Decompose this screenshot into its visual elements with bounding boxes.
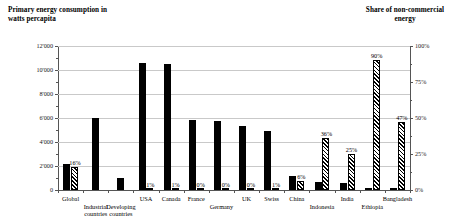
x-axis-label: Germany — [210, 203, 233, 210]
bar-value-label: 25% — [346, 146, 357, 153]
bar-value-label: 47% — [396, 114, 407, 121]
x-axis-label: UK — [242, 195, 251, 202]
bar-noncommercial-bangladesh — [398, 122, 405, 190]
bar-value-label: 1% — [272, 181, 280, 188]
left-minor-tick — [56, 58, 58, 59]
right-minor-tick — [410, 100, 412, 101]
gridline — [58, 70, 410, 71]
bar-noncommercial-canada — [172, 188, 179, 190]
left-tick-label: 10'000 — [9, 66, 53, 73]
bar-value-label: 16% — [69, 159, 80, 166]
x-tick-mark — [83, 190, 84, 193]
left-tick-label: 4'000 — [9, 138, 53, 145]
left-tick-label: 12'000 — [9, 42, 53, 49]
bar-energy-france — [189, 120, 196, 190]
bar-energy-industrial-countries — [92, 118, 99, 190]
bar-energy-china — [289, 176, 296, 190]
x-tick-mark — [108, 190, 109, 193]
bar-value-label: 6% — [297, 173, 305, 180]
chart-canvas: Primary energy consumption in watts perc… — [0, 0, 454, 223]
bar-energy-usa — [139, 63, 146, 190]
bar-noncommercial-france — [197, 188, 204, 190]
bar-energy-uk — [239, 126, 246, 190]
left-axis-title: Primary energy consumption in watts perc… — [8, 6, 118, 23]
x-axis-label: Ethiopia — [362, 203, 383, 210]
bar-noncommercial-ethiopia — [373, 60, 380, 190]
right-tick-label: 50% — [415, 114, 454, 121]
right-axis-title: Share of non-commercial energy — [362, 6, 448, 23]
left-minor-tick — [56, 178, 58, 179]
x-tick-mark — [58, 190, 59, 193]
x-axis-label: Developing — [106, 203, 135, 210]
gridline — [58, 142, 410, 143]
x-tick-mark — [184, 190, 185, 193]
right-minor-tick — [410, 172, 412, 173]
left-minor-tick — [56, 106, 58, 107]
x-axis-label: USA — [140, 195, 153, 202]
bar-energy-india — [340, 183, 347, 190]
bar-noncommercial-india — [348, 154, 355, 190]
x-tick-mark — [284, 190, 285, 193]
x-tick-mark — [259, 190, 260, 193]
bar-noncommercial-swiss — [272, 188, 279, 190]
left-minor-tick — [56, 130, 58, 131]
bar-value-label: 1% — [146, 181, 154, 188]
x-axis-label: Global — [62, 195, 79, 202]
x-tick-mark — [309, 190, 310, 193]
bar-noncommercial-indonesia — [322, 138, 329, 190]
right-tick-label: 0% — [415, 186, 454, 193]
bar-energy-germany — [214, 121, 221, 190]
bar-energy-developing-countries — [117, 178, 124, 190]
x-tick-mark — [360, 190, 361, 193]
left-tick-mark — [55, 70, 58, 71]
right-tick-label: 100% — [415, 42, 454, 49]
x-axis-label: Swiss — [264, 195, 279, 202]
x-tick-mark — [234, 190, 235, 193]
left-tick-label: 8'000 — [9, 90, 53, 97]
right-tick-label: 25% — [415, 150, 454, 157]
x-tick-mark — [335, 190, 336, 193]
x-tick-mark — [410, 190, 411, 193]
x-axis-label: France — [188, 195, 205, 202]
right-tick-mark — [410, 118, 413, 119]
bar-energy-global — [63, 164, 70, 190]
bar-energy-indonesia — [315, 182, 322, 190]
gridline — [58, 166, 410, 167]
right-tick-mark — [410, 46, 413, 47]
bar-value-label: 90% — [371, 52, 382, 59]
x-tick-mark — [159, 190, 160, 193]
bar-noncommercial-germany — [222, 188, 229, 190]
left-minor-tick — [56, 82, 58, 83]
left-tick-mark — [55, 142, 58, 143]
left-tick-label: 0 — [9, 186, 53, 193]
x-axis-label: Bangladesh — [383, 195, 412, 202]
gridline — [58, 118, 410, 119]
left-tick-label: 2'000 — [9, 162, 53, 169]
x-axis-label: India — [341, 195, 354, 202]
x-axis-label: countries — [109, 210, 132, 217]
bar-energy-canada — [164, 64, 171, 190]
left-tick-mark — [55, 46, 58, 47]
x-axis-label: Canada — [162, 195, 181, 202]
bar-energy-swiss — [264, 131, 271, 190]
gridline — [58, 94, 410, 95]
left-tick-mark — [55, 118, 58, 119]
right-tick-label: 75% — [415, 78, 454, 85]
bar-value-label: 36% — [321, 130, 332, 137]
gridline — [58, 46, 410, 47]
x-tick-mark — [385, 190, 386, 193]
bar-energy-bangladesh — [390, 188, 397, 190]
right-tick-mark — [410, 154, 413, 155]
bar-noncommercial-global — [71, 167, 78, 190]
left-tick-label: 6'000 — [9, 114, 53, 121]
left-minor-tick — [56, 154, 58, 155]
bar-value-label: 0% — [197, 181, 205, 188]
x-axis-label: Industrial — [84, 203, 108, 210]
x-axis-label: Indonesia — [310, 203, 334, 210]
x-axis-label: countries — [84, 210, 107, 217]
bar-noncommercial-usa — [146, 188, 153, 190]
plot-area: 12'00010'0008'0006'0004'0002'0000 100%75… — [58, 46, 410, 190]
bar-value-label: 1% — [171, 181, 179, 188]
bar-noncommercial-china — [297, 181, 304, 190]
right-minor-tick — [410, 64, 412, 65]
